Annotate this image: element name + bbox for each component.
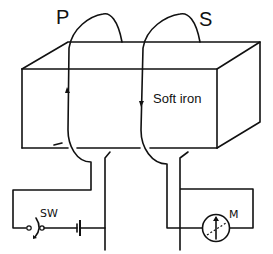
galvanometer [203, 215, 230, 242]
switch [27, 218, 77, 239]
battery-cell [77, 220, 105, 236]
primary-label: P [56, 7, 69, 27]
secondary-label: S [199, 9, 212, 29]
switch-label: SW [40, 208, 58, 219]
core-label: Soft iron [153, 92, 201, 105]
primary-coil [13, 14, 122, 250]
meter-label: M [229, 209, 239, 220]
